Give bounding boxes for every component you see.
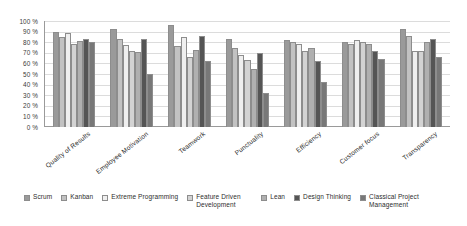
legend-item-feature-driven-development[interactable]: Feature Driven Development	[187, 193, 252, 209]
y-axis-tick-0: 0 %	[27, 124, 38, 131]
bar-group-efficiency	[276, 21, 334, 127]
legend-swatch-icon	[294, 195, 300, 201]
legend-label: Lean	[270, 193, 285, 201]
legend-swatch-icon	[261, 195, 267, 201]
legend-item-scrum[interactable]: Scrum	[24, 193, 52, 201]
bar-group-punctuality	[219, 21, 277, 127]
bar-group-transparency	[392, 21, 450, 127]
bar-group-customer-focus	[334, 21, 392, 127]
legend-swatch-icon	[102, 195, 108, 201]
bar-group-employee-motivation	[103, 21, 161, 127]
x-axis-label-transparency: Transparency	[401, 130, 438, 161]
bar-classical-project-management[interactable]	[436, 57, 442, 127]
y-axis-tick-70: 70 %	[23, 49, 38, 56]
y-axis-tick-90: 90 %	[23, 28, 38, 35]
x-axis-label-teamwork: Teamwork	[178, 130, 207, 155]
y-axis-tick-10: 10 %	[23, 113, 38, 120]
legend-swatch-icon	[24, 195, 30, 201]
x-axis-label-quality-of-results: Quality of Results	[44, 130, 91, 169]
y-axis-tick-labels: 100 %90 %80 %70 %60 %50 %40 %30 %20 %10 …	[0, 14, 41, 134]
x-axis-label-punctuality: Punctuality	[234, 130, 265, 156]
legend-label: Extreme Programming	[111, 193, 178, 201]
legend-label: Feature Driven Development	[196, 193, 252, 209]
bar-classical-project-management[interactable]	[205, 61, 211, 127]
bar-classical-project-management[interactable]	[263, 93, 269, 127]
bar-groups	[45, 21, 450, 127]
chart-legend: ScrumKanbanExtreme ProgrammingFeature Dr…	[24, 193, 448, 209]
bar-classical-project-management[interactable]	[321, 82, 327, 127]
y-axis-tick-80: 80 %	[23, 39, 38, 46]
bar-group-teamwork	[161, 21, 219, 127]
x-axis-label-efficiency: Efficiency	[295, 130, 323, 154]
bar-classical-project-management[interactable]	[147, 74, 153, 127]
y-axis-tick-50: 50 %	[23, 71, 38, 78]
x-axis-label-customer-focus: Customer focus	[338, 130, 380, 165]
legend-swatch-icon	[360, 195, 366, 201]
legend-label: Kanban	[70, 193, 93, 201]
legend-item-extreme-programming[interactable]: Extreme Programming	[102, 193, 178, 201]
bar-classical-project-management[interactable]	[378, 59, 384, 127]
y-axis-tick-100: 100 %	[19, 18, 38, 25]
legend-label: Design Thinking	[303, 193, 351, 201]
legend-label: Classical Project Management	[369, 193, 441, 209]
legend-item-design-thinking[interactable]: Design Thinking	[294, 193, 351, 201]
y-axis-tick-40: 40 %	[23, 81, 38, 88]
legend-label: Scrum	[33, 193, 52, 201]
legend-swatch-icon	[187, 195, 193, 201]
x-axis-label-employee-motivation: Employee Motivation	[94, 130, 149, 175]
legend-swatch-icon	[61, 195, 67, 201]
x-axis-category-labels: Quality of ResultsEmployee MotivationTea…	[45, 128, 450, 186]
legend-item-lean[interactable]: Lean	[261, 193, 285, 201]
bar-group-quality-of-results	[45, 21, 103, 127]
legend-item-kanban[interactable]: Kanban	[61, 193, 93, 201]
y-axis-tick-60: 60 %	[23, 60, 38, 67]
grouped-bar-chart: 100 %90 %80 %70 %60 %50 %40 %30 %20 %10 …	[0, 0, 467, 226]
y-axis-tick-30: 30 %	[23, 92, 38, 99]
bar-classical-project-management[interactable]	[89, 42, 95, 127]
legend-item-classical-project-management[interactable]: Classical Project Management	[360, 193, 441, 209]
y-axis-tick-20: 20 %	[23, 102, 38, 109]
